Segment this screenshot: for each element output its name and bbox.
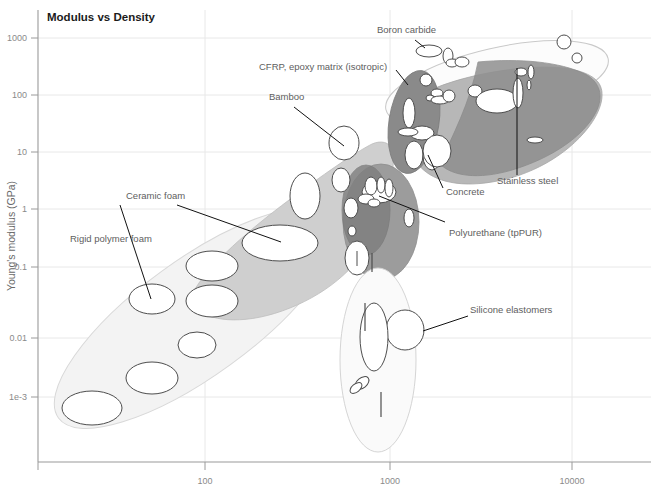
bubble-foam xyxy=(126,362,178,394)
bubble-ceramic xyxy=(420,74,432,86)
bubble-silicone xyxy=(386,310,424,350)
x-tick-100: 100 xyxy=(197,476,212,486)
bubble-metal xyxy=(527,137,543,143)
bubble-polymer xyxy=(368,199,380,207)
bubble-foam xyxy=(186,251,238,281)
page-title: Modulus vs Density xyxy=(47,11,156,23)
bubble-polymer xyxy=(348,226,356,236)
y-tick-1000: 1000 xyxy=(7,33,27,43)
y-tick-0.01: 0.01 xyxy=(9,333,27,343)
bubble-natural xyxy=(332,168,350,192)
annotation-ceramic-foam: Ceramic foam xyxy=(126,190,185,201)
bubble-foam xyxy=(62,391,122,425)
y-tick-1: 1 xyxy=(22,204,27,214)
modulus-density-chart: Boron carbide CFRP, epoxy matrix (isotro… xyxy=(0,0,655,490)
bubble-polymer xyxy=(377,177,385,193)
bubble-concrete xyxy=(423,135,451,167)
bubble-polymer xyxy=(344,198,358,218)
annotation-boron-carbide: Boron carbide xyxy=(377,24,436,35)
annotation-polyurethane: Polyurethane (tpPUR) xyxy=(449,227,542,238)
bubble-foam xyxy=(186,285,238,317)
x-tick-10000: 10000 xyxy=(559,476,584,486)
bubble-metal xyxy=(398,128,418,136)
chart-page: Boron carbide CFRP, epoxy matrix (isotro… xyxy=(0,0,655,490)
bubble-polymer xyxy=(385,179,393,197)
bubble-boron-carbide xyxy=(416,45,442,57)
annotation-concrete: Concrete xyxy=(446,186,485,197)
bubble-metal xyxy=(527,80,531,90)
bubble-ceramic xyxy=(572,53,582,63)
annotation-rigid-polymer-foam: Rigid polymer foam xyxy=(70,233,152,244)
bubble-polymer xyxy=(404,209,414,227)
y-axis-label: Young's modulus (GPa) xyxy=(5,181,17,291)
annotation-bamboo: Bamboo xyxy=(269,91,304,102)
bubble-ceramic xyxy=(455,57,469,67)
bubble-foam xyxy=(178,332,216,358)
bubble-elastomer xyxy=(360,303,388,371)
y-tick-100: 100 xyxy=(12,90,27,100)
bubble-ceramic-foam xyxy=(242,225,318,261)
x-axis-tick-labels: 100 1000 10000 xyxy=(197,476,584,486)
y-tick-10: 10 xyxy=(17,147,27,157)
annotation-stainless-steel: Stainless steel xyxy=(497,175,558,186)
annotation-silicone-elastomers: Silicone elastomers xyxy=(470,304,553,315)
x-tick-1000: 1000 xyxy=(380,476,400,486)
bubble-composite xyxy=(405,141,423,169)
bubble-polymer xyxy=(365,177,377,195)
bubble-metal xyxy=(528,65,534,79)
bubble-metal xyxy=(513,78,523,108)
y-axis-ticks xyxy=(31,38,38,397)
bubble-ceramic xyxy=(557,35,571,49)
bubble-foam xyxy=(290,173,320,219)
bubble-ceramic xyxy=(443,90,455,102)
bubble-bamboo xyxy=(329,126,359,160)
bubble-foam xyxy=(129,284,175,314)
annotation-cfrp: CFRP, epoxy matrix (isotropic) xyxy=(259,61,387,72)
x-axis-ticks xyxy=(38,462,572,470)
bubble-cfrp xyxy=(403,98,415,128)
y-tick-1e-3: 1e-3 xyxy=(9,392,27,402)
bubble-metal xyxy=(476,89,518,113)
